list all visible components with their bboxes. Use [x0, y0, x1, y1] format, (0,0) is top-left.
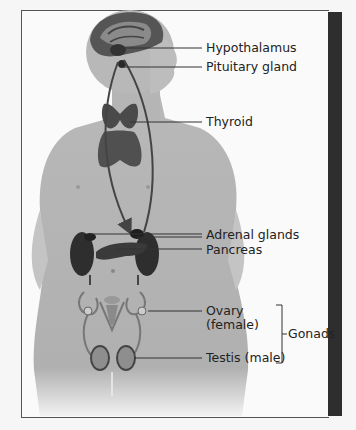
label-gonads: Gonads — [288, 327, 335, 341]
label-pancreas: Pancreas — [206, 243, 262, 257]
body-illustration — [0, 0, 356, 430]
label-thyroid: Thyroid — [206, 115, 253, 129]
label-adrenal-glands: Adrenal glands — [206, 228, 299, 242]
label-hypothalamus: Hypothalamus — [206, 41, 297, 55]
label-testis: Testis (male) — [206, 351, 285, 365]
label-pituitary-gland: Pituitary gland — [206, 60, 297, 74]
label-ovary: Ovary — [206, 304, 243, 318]
label-ovary-female: (female) — [206, 318, 259, 332]
